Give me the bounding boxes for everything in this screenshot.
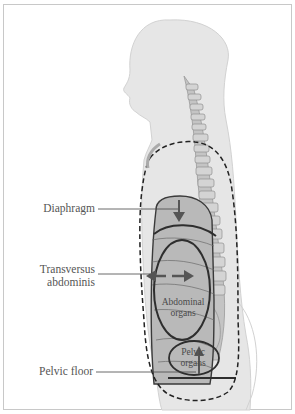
label-abdominal-organs: Abdominal organs: [158, 297, 208, 319]
label-transversus-abdominis: Transversus abdominis: [40, 263, 95, 289]
label-pelvic-line1: Pelvic: [170, 347, 216, 358]
label-pelvic-floor: Pelvic floor: [39, 365, 93, 378]
label-pelvic-line2: organs: [170, 358, 216, 369]
label-abdominal-line2: organs: [158, 308, 208, 319]
label-transversus-line1: Transversus: [40, 263, 95, 276]
label-pelvic-organs: Pelvic organs: [170, 347, 216, 369]
label-transversus-line2: abdominis: [40, 276, 95, 289]
label-diaphragm: Diaphragm: [43, 202, 95, 215]
label-abdominal-line1: Abdominal: [158, 297, 208, 308]
